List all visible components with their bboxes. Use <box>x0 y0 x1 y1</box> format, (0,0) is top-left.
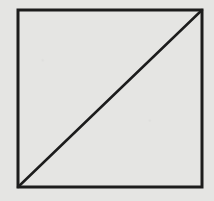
square-diagonal-figure <box>0 0 214 201</box>
diagram-canvas <box>0 0 214 201</box>
diagonal-line <box>18 10 202 187</box>
